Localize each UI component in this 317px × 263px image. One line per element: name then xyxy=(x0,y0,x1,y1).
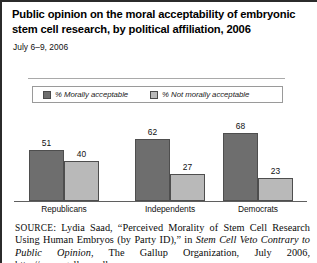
bar-value-label: 62 xyxy=(135,127,170,139)
chart-subtitle: July 6–9, 2006 xyxy=(13,42,68,52)
chart-legend: % Morally acceptable % Not morally accep… xyxy=(32,86,283,103)
x-axis-labels: RepublicansIndependentsDemocrats xyxy=(2,204,317,217)
legend-item-morally-acceptable: % Morally acceptable xyxy=(43,87,128,102)
x-axis-line xyxy=(14,201,307,203)
bar-group: 5140 xyxy=(29,111,99,201)
page-title: Public opinion on the moral acceptabilit… xyxy=(12,7,312,36)
bar xyxy=(135,139,170,201)
bar-value-label: 27 xyxy=(170,162,205,174)
legend-item-not-morally-acceptable: % Not morally acceptable xyxy=(150,87,249,102)
x-axis-category-label: Independents xyxy=(125,204,215,214)
bar xyxy=(223,133,258,201)
x-axis-category-label: Republicans xyxy=(19,204,109,214)
header-divider xyxy=(28,78,285,79)
x-axis-category-label: Democrats xyxy=(213,204,303,214)
bar-value-label: 51 xyxy=(29,138,64,150)
bar xyxy=(29,150,64,201)
source-note: SOURCE: Lydia Saad, “Perceived Morality … xyxy=(15,222,310,263)
bar xyxy=(258,178,293,201)
bar xyxy=(64,161,99,201)
legend-label-morally-acceptable: % Morally acceptable xyxy=(55,90,128,99)
bar-group: 6823 xyxy=(223,111,293,201)
source-prefix: SOURCE xyxy=(15,223,53,233)
bar-group: 6227 xyxy=(135,111,205,201)
legend-swatch-not-morally-acceptable xyxy=(150,91,158,99)
legend-label-not-morally-acceptable: % Not morally acceptable xyxy=(162,90,249,99)
bar xyxy=(170,174,205,201)
chart-figure: Public opinion on the moral acceptabilit… xyxy=(0,0,317,263)
plot-area: 514062276823 xyxy=(2,110,317,202)
top-rule xyxy=(2,0,317,2)
bar-value-label: 40 xyxy=(64,149,99,161)
bar-value-label: 68 xyxy=(223,121,258,133)
legend-swatch-morally-acceptable xyxy=(43,91,51,99)
bar-value-label: 23 xyxy=(258,166,293,178)
